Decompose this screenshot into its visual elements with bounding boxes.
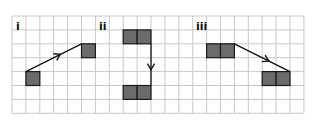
arrows: [26, 44, 290, 86]
shaded-square: [26, 72, 40, 86]
panel-label: i: [16, 20, 20, 33]
translation-grid-diagram: iiiiii: [0, 0, 320, 124]
shapes: [26, 30, 290, 100]
shaded-square: [137, 86, 151, 100]
panel-label: iii: [196, 20, 207, 33]
shaded-square: [123, 30, 137, 44]
panel-label: ii: [99, 20, 107, 33]
shaded-square: [82, 44, 96, 58]
shaded-square: [276, 72, 290, 86]
shaded-square: [207, 44, 221, 58]
shaded-square: [137, 30, 151, 44]
shaded-square: [123, 86, 137, 100]
grid-lines: [12, 16, 304, 113]
shaded-square: [221, 44, 235, 58]
shaded-square: [262, 72, 276, 86]
